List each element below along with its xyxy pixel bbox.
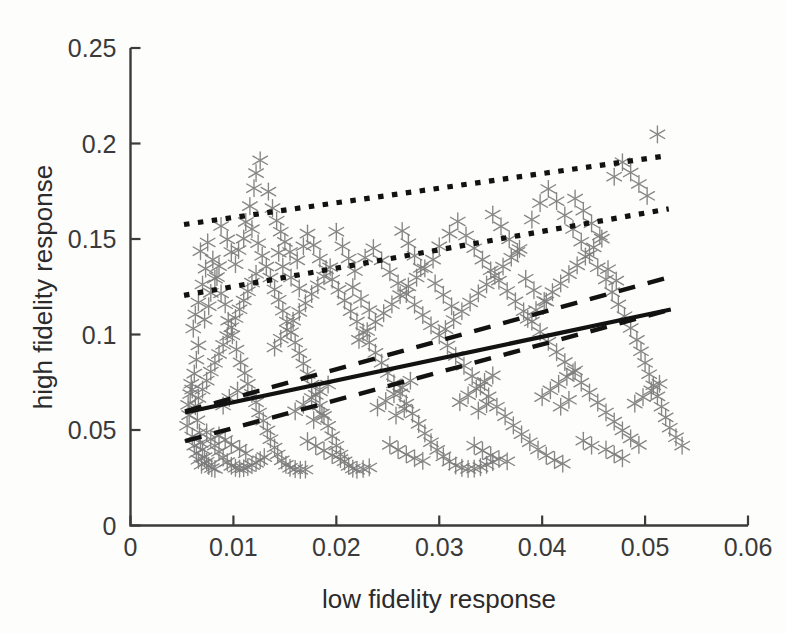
y-axis-title: high fidelity response bbox=[28, 165, 58, 409]
x-tick-label: 0.03 bbox=[415, 533, 464, 561]
x-tick-label: 0.01 bbox=[209, 533, 258, 561]
x-tick-label: 0.02 bbox=[312, 533, 361, 561]
x-axis-title: low fidelity response bbox=[322, 584, 556, 614]
y-tick-label: 0.2 bbox=[82, 130, 117, 158]
y-tick-label: 0 bbox=[103, 512, 117, 540]
x-tick-label: 0.05 bbox=[621, 533, 670, 561]
y-tick-label: 0.15 bbox=[68, 225, 117, 253]
x-tick-label: 0.04 bbox=[518, 533, 567, 561]
x-tick-label: 0.06 bbox=[724, 533, 773, 561]
y-tick-label: 0.1 bbox=[82, 321, 117, 349]
y-tick-label: 0.25 bbox=[68, 34, 117, 62]
x-tick-label: 0 bbox=[124, 533, 138, 561]
y-tick-label: 0.05 bbox=[68, 416, 117, 444]
plot-canvas: 00.010.020.030.040.050.06 00.050.10.150.… bbox=[0, 0, 786, 633]
scatter-plot-figure: 00.010.020.030.040.050.06 00.050.10.150.… bbox=[0, 0, 786, 633]
